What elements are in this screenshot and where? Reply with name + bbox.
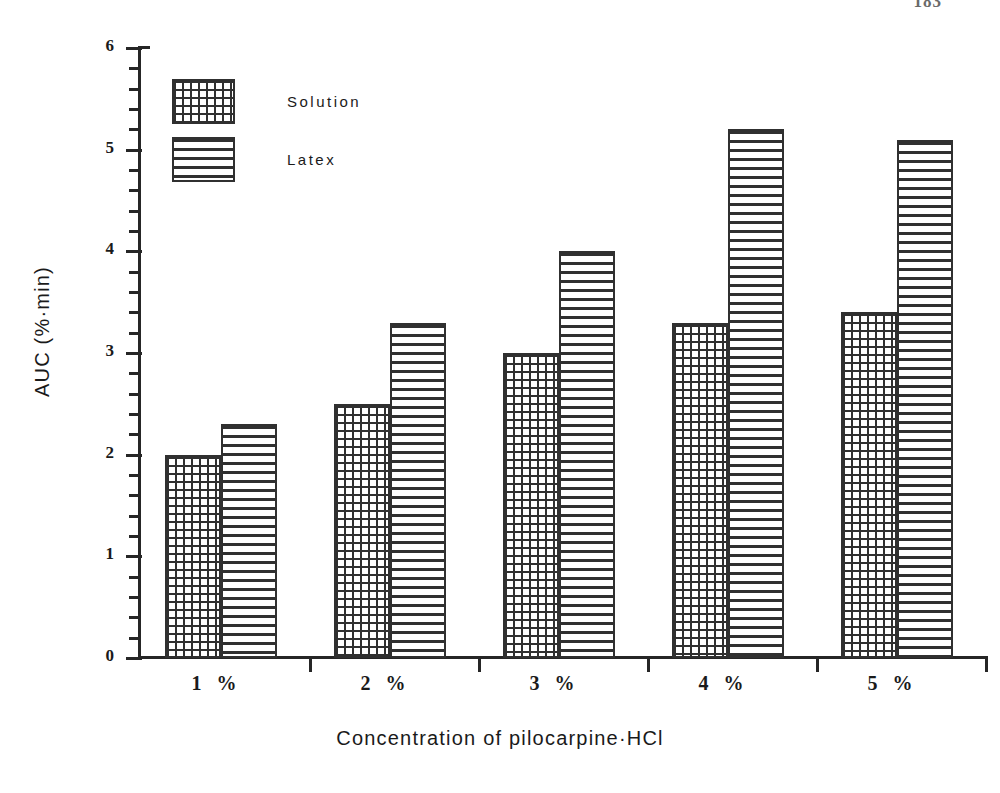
- bar-solution-2: [334, 404, 390, 658]
- bar-solution-5: [841, 312, 897, 658]
- y-axis-tick-label: 1: [84, 544, 114, 564]
- bar-latex-5: [897, 140, 953, 659]
- x-axis-tick-label: 3 %: [530, 672, 580, 695]
- legend-label-latex: Latex: [287, 151, 336, 168]
- x-axis-tick-label: 2 %: [361, 672, 411, 695]
- page-number: 183: [914, 0, 943, 12]
- x-axis-tick: [647, 656, 650, 672]
- y-axis-tick-label: 0: [84, 646, 114, 666]
- x-axis-tick-label: 4 %: [699, 672, 749, 695]
- x-axis-tick: [309, 656, 312, 672]
- x-axis-tick: [478, 656, 481, 672]
- y-axis-title: AUC (%·min): [31, 207, 54, 457]
- bar-solution-3: [503, 353, 559, 658]
- figure-container: 183 0123456 1 %2 %3 %4 %5 % Solution Lat…: [0, 0, 1000, 793]
- legend-swatch-solution-icon: [172, 79, 235, 124]
- legend-label-solution: Solution: [287, 93, 361, 110]
- chart-legend: Solution Latex: [172, 78, 361, 194]
- bar-solution-4: [672, 323, 728, 659]
- y-axis-tick-label: 5: [84, 138, 114, 158]
- legend-item-latex: Latex: [172, 136, 361, 183]
- legend-item-solution: Solution: [172, 78, 361, 125]
- x-axis-tick: [816, 656, 819, 672]
- y-axis-tick-label: 4: [84, 239, 114, 259]
- x-axis-title: Concentration of pilocarpine·HCl: [0, 727, 1000, 750]
- bar-latex-2: [390, 323, 446, 659]
- bar-latex-3: [559, 251, 615, 658]
- x-axis-tick: [985, 656, 988, 672]
- bar-latex-1: [221, 424, 277, 658]
- bar-solution-1: [165, 455, 221, 658]
- y-axis-tick-label: 3: [84, 341, 114, 361]
- legend-swatch-latex-icon: [172, 137, 235, 182]
- y-axis-tick-label: 2: [84, 443, 114, 463]
- y-axis-tick-label: 6: [84, 36, 114, 56]
- x-axis-tick-label: 5 %: [868, 672, 918, 695]
- bar-latex-4: [728, 129, 784, 658]
- x-axis-tick-label: 1 %: [192, 672, 242, 695]
